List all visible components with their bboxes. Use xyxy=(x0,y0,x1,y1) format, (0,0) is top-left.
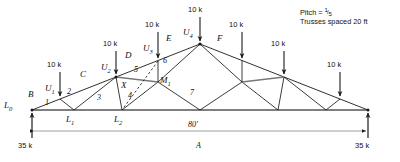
reaction-label-left: 35 k xyxy=(18,142,32,150)
span-dimension-label: 80' xyxy=(188,121,198,129)
load-label-U2: 10 k xyxy=(103,40,117,48)
panel-number-7: 7 xyxy=(190,89,194,97)
joint-label-U4: U4 xyxy=(183,28,193,39)
member-letter-B: B xyxy=(28,90,34,99)
joint-label-M1: M1 xyxy=(160,76,171,87)
section-label-A: A xyxy=(196,142,201,150)
panel-number-3: 3 xyxy=(97,94,101,102)
panel-number-5: 5 xyxy=(134,66,138,74)
member-letter-C: C xyxy=(80,70,86,79)
reaction-label-right: 35 k xyxy=(355,142,369,150)
panel-number-1: 1 xyxy=(45,99,49,107)
pitch-note-label: Pitch = xyxy=(300,8,323,17)
reaction-arrows xyxy=(32,113,368,138)
member-letter-F: F xyxy=(217,34,223,43)
panel-number-4: 4 xyxy=(128,92,132,100)
joint-label-U3: U3 xyxy=(143,44,153,55)
pitch-fraction: 1/5 xyxy=(325,9,333,16)
load-label-U7: 10 k xyxy=(327,61,341,69)
load-arrows xyxy=(60,17,340,96)
joint-label-U1: U1 xyxy=(45,84,55,95)
load-label-U4: 10 k xyxy=(188,6,202,14)
load-label-U1: 10 k xyxy=(47,61,61,69)
joint-label-L0: L0 xyxy=(4,101,12,112)
joint-label-U2: U2 xyxy=(101,63,111,74)
joint-label-L2: L2 xyxy=(114,115,122,126)
load-label-U3: 10 k xyxy=(145,21,159,29)
web-members-right xyxy=(200,44,340,110)
joint-label-L1: L1 xyxy=(66,115,74,126)
spacing-note: Trusses spaced 20 ft xyxy=(300,18,367,27)
panel-number-2: 2 xyxy=(67,88,71,96)
panel-number-6: 6 xyxy=(163,57,167,65)
load-label-U6: 10 k xyxy=(271,40,285,48)
member-letter-D: D xyxy=(125,51,132,60)
member-letter-E: E xyxy=(166,34,172,43)
point-label-X: X xyxy=(121,81,127,90)
load-label-U5: 10 k xyxy=(229,21,243,29)
truss-diagram: 10 k 10 k 10 k 10 k 10 k 10 k 10 k L0 L1… xyxy=(0,0,400,162)
